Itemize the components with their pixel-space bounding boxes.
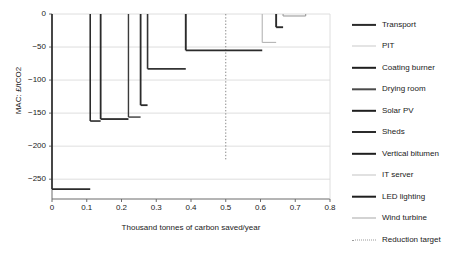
chart-legend: TransportPITCoating burnerDrying roomSol… [352, 14, 465, 251]
x-tick-label: 0.1 [72, 203, 102, 212]
legend-label: LED lighting [382, 193, 425, 201]
legend-item[interactable]: Drying room [352, 79, 465, 101]
macc-step [262, 14, 276, 42]
x-tick-label: 0.7 [280, 203, 310, 212]
legend-swatch-icon [352, 170, 376, 180]
y-axis-label: MAC: £/tCO2 [14, 43, 23, 139]
legend-item[interactable]: Sheds [352, 122, 465, 144]
legend-label: Reduction target [382, 236, 441, 244]
x-axis-label: Thousand tonnes of carbon saved/year [52, 223, 330, 232]
y-tick-label: −50 [12, 42, 46, 51]
legend-swatch-icon [352, 41, 376, 51]
legend-swatch-icon [352, 63, 376, 73]
legend-item[interactable]: IT server [352, 165, 465, 187]
legend-swatch-icon [352, 20, 376, 30]
legend-swatch-icon [352, 149, 376, 159]
x-tick-label: 0.6 [246, 203, 276, 212]
legend-item[interactable]: Transport [352, 14, 465, 36]
macc-step [90, 14, 100, 121]
legend-swatch-icon [352, 84, 376, 94]
x-tick-label: 0 [37, 203, 67, 212]
legend-label: Coating burner [382, 64, 435, 72]
y-tick-label: −250 [12, 174, 46, 183]
macc-step [128, 14, 140, 117]
legend-label: IT server [382, 171, 413, 179]
x-tick-label: 0.3 [141, 203, 171, 212]
legend-label: Drying room [382, 85, 426, 93]
macc-chart: MAC: £/tCO2 Thousand tonnes of carbon sa… [0, 0, 340, 271]
legend-item[interactable]: Wind turbine [352, 208, 465, 230]
legend-label: PIT [382, 42, 394, 50]
x-tick-label: 0.8 [315, 203, 345, 212]
legend-swatch-icon [352, 127, 376, 137]
legend-item[interactable]: Reduction target [352, 229, 465, 251]
legend-item[interactable]: LED lighting [352, 186, 465, 208]
legend-item[interactable]: PIT [352, 36, 465, 58]
x-tick-label: 0.4 [176, 203, 206, 212]
legend-item[interactable]: Coating burner [352, 57, 465, 79]
legend-label: Vertical bitumen [382, 150, 439, 158]
macc-step [141, 14, 148, 105]
y-tick-label: −100 [12, 75, 46, 84]
x-tick-label: 0.2 [107, 203, 137, 212]
legend-label: Wind turbine [382, 214, 427, 222]
legend-item[interactable]: Vertical bitumen [352, 143, 465, 165]
y-tick-label: −200 [12, 141, 46, 150]
legend-swatch-icon [352, 235, 376, 245]
chart-page: MAC: £/tCO2 Thousand tonnes of carbon sa… [0, 0, 465, 271]
legend-label: Sheds [382, 128, 405, 136]
x-tick-label: 0.5 [211, 203, 241, 212]
macc-step [148, 14, 186, 69]
legend-swatch-icon [352, 192, 376, 202]
macc-step [101, 14, 129, 119]
legend-label: Solar PV [382, 107, 414, 115]
legend-item[interactable]: Solar PV [352, 100, 465, 122]
legend-label: Transport [382, 21, 416, 29]
macc-step [52, 14, 90, 189]
legend-swatch-icon [352, 106, 376, 116]
y-tick-label: −150 [12, 108, 46, 117]
legend-swatch-icon [352, 213, 376, 223]
macc-step [276, 14, 283, 27]
macc-step [186, 14, 262, 50]
y-tick-label: 0 [12, 9, 46, 18]
